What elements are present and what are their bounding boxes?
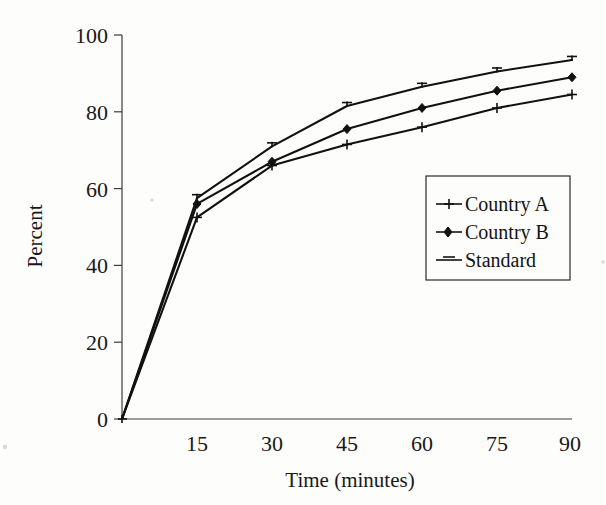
x-tick-label-90: 90 [559,431,581,456]
x-tick-label-15: 15 [186,431,208,456]
x-tick-label-30: 30 [261,431,283,456]
chart-legend[interactable]: Country A Country B Standard [426,176,570,280]
chart-figure: 100 80 60 40 20 0 Percent 15 30 45 60 75… [0,0,606,505]
legend-label-country-b: Country B [465,221,549,244]
x-tick-label-75: 75 [486,431,508,456]
x-tick-label-60: 60 [411,431,433,456]
legend-label-country-a: Country A [465,193,549,216]
y-tick-label-40: 40 [86,253,108,278]
x-axis-title: Time (minutes) [285,468,414,492]
y-tick-label-20: 20 [86,330,108,355]
y-tick-label-80: 80 [86,100,108,125]
y-tick-label-60: 60 [86,177,108,202]
y-tick-label-0: 0 [97,407,108,432]
line-chart: 100 80 60 40 20 0 Percent 15 30 45 60 75… [0,0,606,505]
x-tick-label-45: 45 [336,431,358,456]
legend-label-standard: Standard [465,249,536,271]
y-axis-title: Percent [23,204,47,267]
scan-speck [601,260,605,264]
scan-speck [150,198,153,201]
scan-speck [3,445,7,449]
y-tick-label-100: 100 [75,23,108,48]
